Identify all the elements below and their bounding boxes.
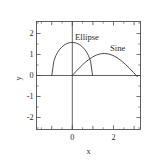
curve-sine [72, 53, 137, 76]
y-axis-ticks-right [136, 23, 140, 128]
y-axis-ticks-left [37, 23, 41, 128]
y-tick-label-2: 2 [29, 29, 33, 38]
x-tick-label-0: 0 [70, 133, 74, 142]
y-tick-label-neg1: -1 [27, 92, 34, 101]
x-tick-label-2: 2 [111, 133, 115, 142]
annotation-sine: Sine [110, 43, 125, 53]
y-tick-label-0: 0 [29, 71, 33, 80]
annotation-ellipse: Ellipse [75, 32, 99, 42]
y-tick-label-1: 1 [29, 50, 33, 59]
y-axis-title: y [14, 76, 23, 81]
chart-svg: 2 1 0 -1 -2 0 2 x y Ellipse Sine [0, 0, 150, 163]
y-tick-label-neg2: -2 [27, 113, 34, 122]
x-axis-title: x [86, 147, 90, 156]
figure-container: 2 1 0 -1 -2 0 2 x y Ellipse Sine [0, 0, 150, 163]
x-axis-ticks-top [41, 22, 134, 26]
x-axis-ticks-bottom [41, 125, 134, 129]
